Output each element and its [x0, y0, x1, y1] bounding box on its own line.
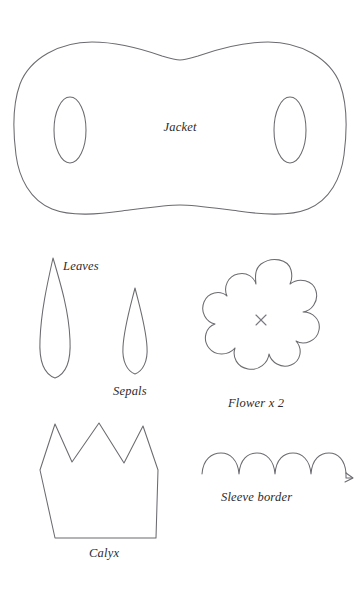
leaves-label: Leaves [62, 259, 99, 273]
flower-outline [203, 259, 320, 369]
pattern-piece-sleeve-border: Sleeve border [202, 453, 353, 504]
sleeve-border-label: Sleeve border [221, 490, 292, 504]
flower-label: Flower x 2 [227, 396, 284, 410]
pattern-piece-flower: Flower x 2 [203, 259, 320, 410]
jacket-label: Jacket [163, 120, 196, 134]
pattern-drawing: Jacket Leaves Sepals Flower x 2 Calyx [0, 0, 360, 590]
calyx-outline [40, 423, 158, 538]
leaf-outline [40, 258, 70, 378]
jacket-armhole-left [54, 97, 86, 163]
pattern-piece-jacket: Jacket [14, 42, 346, 214]
pattern-piece-sepals: Sepals [113, 288, 147, 398]
sepals-label: Sepals [113, 384, 147, 398]
pattern-piece-calyx: Calyx [40, 423, 158, 560]
calyx-label: Calyx [89, 546, 119, 560]
jacket-armhole-right [274, 97, 306, 163]
pattern-sheet: Jacket Leaves Sepals Flower x 2 Calyx [0, 0, 360, 590]
pattern-piece-leaves: Leaves [40, 258, 99, 378]
sepal-outline [123, 288, 147, 374]
sleeve-border-scallops [202, 453, 346, 474]
